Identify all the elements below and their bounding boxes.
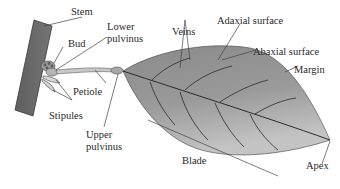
stipules bbox=[42, 76, 60, 92]
upper-pulvinus bbox=[111, 67, 123, 74]
leaf-illustration bbox=[0, 0, 340, 189]
label-veins: Veins bbox=[172, 26, 195, 37]
label-bud: Bud bbox=[68, 38, 86, 49]
label-apex: Apex bbox=[306, 160, 329, 171]
label-blade: Blade bbox=[182, 155, 207, 166]
label-abaxial-surface: Abaxial surface bbox=[253, 46, 319, 57]
label-stipules: Stipules bbox=[49, 110, 83, 121]
label-upper-pulvinus-line2: pulvinus bbox=[86, 141, 122, 152]
label-lower-pulvinus-line2: pulvinus bbox=[107, 33, 143, 44]
label-adaxial-surface: Adaxial surface bbox=[217, 15, 283, 26]
petiole bbox=[56, 68, 114, 74]
label-petiole: Petiole bbox=[73, 86, 102, 97]
leaf-diagram: Stem Bud Lower pulvinus Veins Adaxial su… bbox=[0, 0, 340, 189]
leaf-blade bbox=[123, 46, 330, 155]
label-lower-pulvinus-line1: Lower bbox=[107, 21, 134, 32]
label-stem: Stem bbox=[71, 6, 93, 17]
label-margin: Margin bbox=[294, 64, 325, 75]
label-upper-pulvinus-line1: Upper bbox=[86, 129, 112, 140]
